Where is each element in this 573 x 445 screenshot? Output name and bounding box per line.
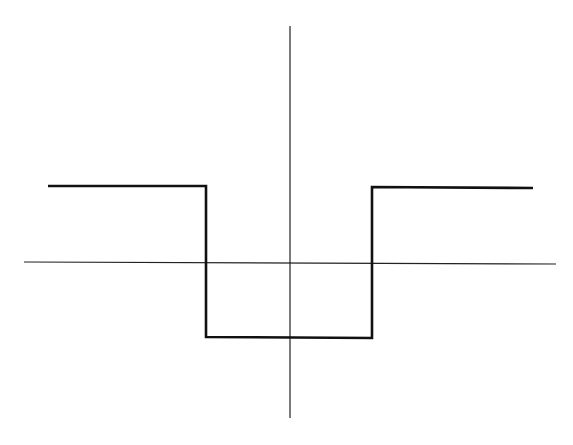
- step-function-diagram: [0, 0, 573, 445]
